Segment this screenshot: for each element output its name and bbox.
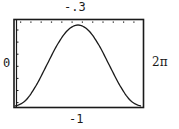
tick-dot [113, 22, 114, 23]
tick-dot [92, 22, 93, 23]
tick-dot [30, 22, 31, 23]
tick-dot [82, 22, 83, 23]
tick-dot [20, 22, 21, 23]
tick-dot [102, 22, 103, 23]
x-axis-tick-dots [20, 22, 135, 23]
plot-curve [15, 25, 141, 106]
tick-dot [133, 22, 134, 23]
tick-dot [61, 22, 62, 23]
plot-frame [14, 20, 144, 108]
plot-area [0, 0, 179, 129]
tick-dot [41, 22, 42, 23]
tick-dot [51, 22, 52, 23]
tick-dot [123, 22, 124, 23]
tick-dot [72, 22, 73, 23]
